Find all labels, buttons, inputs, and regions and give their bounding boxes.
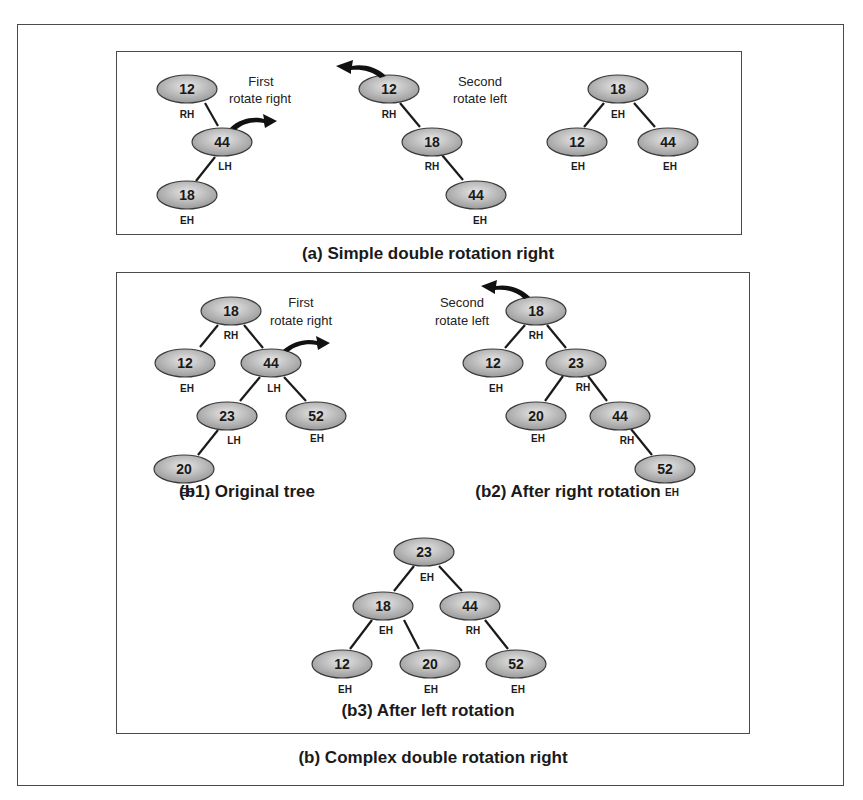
svg-text:44: 44 [462,598,478,614]
tree-node: 20 EH [400,650,460,695]
panel-b2-tree: 18 RH 12 EH 23 RH 20 EH 44 RH 52 EH Sec [435,280,695,498]
svg-text:RH: RH [382,109,396,120]
svg-text:EH: EH [611,109,625,120]
panel-a-step2-tree: 12 RH 18 RH 44 EH Second rotate left [336,60,507,226]
svg-text:18: 18 [424,134,440,150]
svg-text:52: 52 [308,408,324,424]
svg-text:20: 20 [176,461,192,477]
edge [588,376,607,401]
tree-node: 18 EH [588,75,648,120]
svg-text:EH: EH [571,161,585,172]
rotate-left-arrow-icon [481,280,530,299]
edge [442,155,463,180]
svg-text:44: 44 [214,134,230,150]
edge [284,377,306,401]
edge [240,377,260,401]
panel-a-caption: (a) Simple double rotation right [302,244,555,263]
tree-node: 12 EH [547,128,607,172]
panel-a-step3-tree: 18 EH 12 EH 44 EH [547,75,698,172]
svg-text:12: 12 [569,134,585,150]
tree-node: 12 RH [359,75,419,120]
svg-text:RH: RH [466,625,480,636]
rotation-note: First [288,295,314,310]
svg-text:EH: EH [338,684,352,695]
tree-node: 20 EH [506,402,566,444]
rotation-note: rotate left [435,313,490,328]
svg-text:18: 18 [223,303,239,319]
panel-b2-caption: (b2) After right rotation [475,482,660,501]
svg-text:EH: EH [511,684,525,695]
rotation-note: rotate right [229,91,292,106]
svg-text:RH: RH [529,330,543,341]
tree-node: 44 LH [192,128,252,172]
edge [547,325,566,348]
svg-text:LH: LH [267,383,280,394]
edge [634,103,655,127]
svg-text:44: 44 [263,355,279,371]
svg-text:EH: EH [665,487,679,498]
panel-a-step1-tree: 12 RH 44 LH 18 EH First rotate right [157,74,291,226]
svg-text:20: 20 [528,408,544,424]
tree-node: 12 RH [157,75,217,120]
tree-node: 44 EH [638,128,698,172]
tree-node: 44 RH [590,402,650,446]
svg-text:RH: RH [620,435,634,446]
svg-text:LH: LH [218,161,231,172]
panel-b-caption: (b) Complex double rotation right [298,748,567,767]
svg-text:EH: EH [180,383,194,394]
panel-b3-caption: (b3) After left rotation [341,701,514,720]
tree-node: 44 EH [446,181,506,226]
tree-node: 52 EH [286,402,346,444]
rotation-note: Second [440,295,484,310]
svg-text:EH: EH [663,161,677,172]
svg-text:12: 12 [177,355,193,371]
svg-text:EH: EH [424,684,438,695]
edge [198,430,218,455]
avl-double-rotation-diagram: 12 RH 44 LH 18 EH First rotate right 12 … [0,0,863,800]
svg-text:52: 52 [657,461,673,477]
svg-text:18: 18 [610,81,626,97]
tree-node: 12 EH [155,349,215,394]
svg-text:RH: RH [180,109,194,120]
edge [404,620,419,649]
tree-node: 23 EH [394,538,454,583]
tree-node: 52 EH [486,650,546,695]
edge [394,566,414,591]
svg-text:18: 18 [179,187,195,203]
svg-text:44: 44 [612,408,628,424]
edge [485,620,508,649]
edge [400,103,420,127]
tree-node: 18 EH [157,181,217,226]
edge [545,376,563,401]
edge [244,325,263,348]
svg-text:12: 12 [179,81,195,97]
svg-text:RH: RH [224,330,238,341]
svg-text:23: 23 [568,355,584,371]
tree-node: 44 RH [440,592,500,636]
tree-node: 23 LH [197,402,257,446]
panel-b1-caption: (b1) Original tree [179,482,315,501]
rotation-note: rotate right [270,313,333,328]
svg-text:20: 20 [422,656,438,672]
svg-text:18: 18 [375,598,391,614]
svg-text:12: 12 [485,355,501,371]
edge [196,157,215,181]
svg-text:RH: RH [576,382,590,393]
tree-node: 12 EH [463,349,523,394]
edge [205,103,218,126]
svg-text:EH: EH [531,433,545,444]
edge [439,566,462,591]
svg-text:23: 23 [219,408,235,424]
edge [350,620,372,649]
svg-text:LH: LH [227,435,240,446]
svg-text:EH: EH [379,625,393,636]
svg-text:18: 18 [528,303,544,319]
svg-text:12: 12 [334,656,350,672]
edge [200,325,218,347]
rotation-note: Second [458,74,502,89]
edge [584,103,604,127]
panel-b3-tree: 23 EH 18 EH 44 RH 12 EH 20 EH 52 EH [312,538,546,695]
rotate-right-arrow-icon [283,336,330,352]
edge [505,325,525,348]
svg-text:EH: EH [180,215,194,226]
